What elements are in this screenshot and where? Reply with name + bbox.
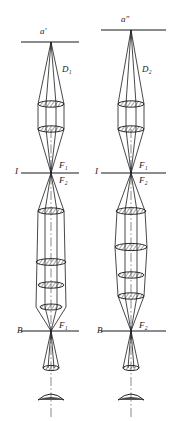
label-object-plane-right: B [97, 325, 103, 335]
lens-element [40, 304, 62, 310]
label-image-point-left: a′ [40, 26, 48, 36]
lens-element [38, 282, 64, 288]
lens-element [118, 293, 144, 299]
label-focus-bottom-right: F₂ [138, 320, 148, 330]
lens-element [116, 208, 146, 215]
lens-element [38, 126, 64, 132]
optical-system-left [21, 42, 79, 418]
lens-element [38, 101, 64, 107]
label-focus-lower-left: F₂ [58, 175, 68, 185]
label-focus-lower-right: F₂ [138, 175, 148, 185]
lens-element [43, 365, 59, 370]
lens-element [118, 101, 144, 107]
lens-element [36, 259, 66, 266]
label-object-plane-left: B [17, 325, 23, 335]
label-focus-upper-right: F₁ [138, 160, 148, 170]
label-intermediate-plane-left: I [14, 166, 19, 176]
label-focus-upper-left: F₁ [58, 160, 68, 170]
optical-ray-diagram: a′ D₁ I F₁ F₂ B F₁ a″ D₂ I F₁ F₂ B F₂ [0, 0, 183, 421]
lens-element [118, 272, 144, 278]
optical-system-right [101, 30, 166, 418]
label-focus-bottom-left: F₁ [58, 320, 68, 330]
lens-element [118, 126, 144, 132]
label-aperture-right: D₂ [141, 64, 152, 74]
label-aperture-left: D₁ [61, 64, 72, 74]
lens-element [38, 208, 64, 214]
diagram-canvas: a′ D₁ I F₁ F₂ B F₁ a″ D₂ I F₁ F₂ B F₂ [0, 0, 183, 421]
label-intermediate-plane-right: I [94, 166, 99, 176]
label-image-point-right: a″ [121, 14, 130, 24]
lens-element [115, 243, 147, 250]
lens-element [123, 365, 139, 370]
